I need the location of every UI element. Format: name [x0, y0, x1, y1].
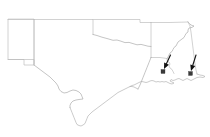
river-outline-rio-grande	[34, 65, 83, 108]
state-outline-arkansas-north	[151, 22, 188, 23]
river-outline-red-river	[93, 35, 151, 47]
marker-louisiana[interactable]	[161, 70, 165, 74]
state-outline-oklahoma-north	[93, 20, 151, 23]
outline-map-figure	[0, 0, 210, 137]
coast-outline-texas-gulf	[70, 87, 138, 127]
map-canvas	[0, 0, 210, 137]
state-outline-new-mexico-south	[8, 60, 34, 66]
state-outline-new-mexico	[8, 20, 34, 65]
state-outline-arkansas-south	[151, 58, 167, 59]
river-outline-sabine	[138, 58, 151, 90]
coast-outline-gulf-east	[130, 74, 205, 87]
state-outline-oklahoma-panhandle	[34, 20, 93, 35]
marker-gulf-coast[interactable]	[189, 72, 193, 76]
arrow-right-head	[190, 64, 195, 71]
